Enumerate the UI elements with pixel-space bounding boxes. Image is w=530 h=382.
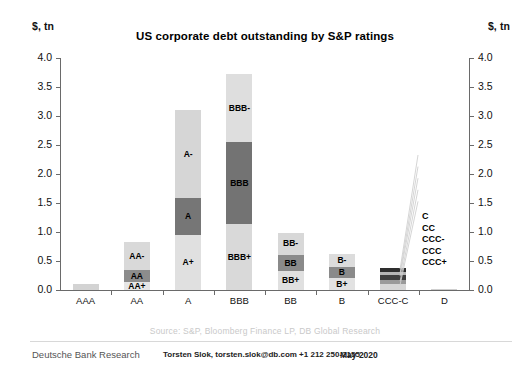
x-tick [214, 291, 215, 295]
callout-label-ccc: CCC [422, 246, 447, 258]
x-axis-label-aa: AA [131, 295, 144, 306]
callout-leader-lines [60, 58, 470, 291]
bar-segment-aa+[interactable]: AA+ [124, 282, 150, 290]
bar-segment-b+[interactable]: B+ [329, 278, 355, 290]
y-tick-label-r: 0.0 [478, 283, 493, 295]
bar-segment-bbb[interactable]: BBB [226, 142, 252, 224]
y-tick-r [470, 116, 474, 117]
y-tick-label-r: 2.5 [478, 138, 493, 150]
bar-ccc-c[interactable] [380, 268, 406, 290]
y-tick-label-l: 0.5 [37, 254, 52, 266]
y-tick-r [470, 261, 474, 262]
bar-segment-d[interactable] [431, 289, 457, 290]
y-tick-r [470, 232, 474, 233]
y-tick-l [56, 145, 60, 146]
bar-segment-b-[interactable]: B- [329, 254, 355, 267]
y-tick-label-r: 4.0 [478, 51, 493, 63]
y-tick-label-l: 0.0 [37, 283, 52, 295]
y-tick-r [470, 203, 474, 204]
y-tick-label-l: 3.5 [37, 80, 52, 92]
y-tick-r [470, 58, 474, 59]
y-tick-label-r: 2.0 [478, 167, 493, 179]
x-tick [316, 291, 317, 295]
bar-segment-a-[interactable]: A- [175, 110, 201, 199]
bar-a[interactable]: A+AA- [175, 110, 201, 290]
bar-aaa[interactable] [73, 284, 99, 290]
bar-segment-bbb-[interactable]: BBB- [226, 74, 252, 142]
bar-segment-ccc+[interactable] [380, 284, 406, 290]
publication-date: May 2020 [340, 350, 378, 360]
callout-label-cccplus: CCC+ [422, 257, 447, 269]
x-tick [419, 291, 420, 295]
y-tick-l [56, 261, 60, 262]
y-tick-label-r: 1.0 [478, 225, 493, 237]
y-tick-l [56, 174, 60, 175]
y-tick-r [470, 87, 474, 88]
x-axis-label-bbb: BBB [230, 295, 249, 306]
bar-segment-bb+[interactable]: BB+ [278, 271, 304, 290]
callout-label-ccc-: CCC- [422, 234, 447, 246]
x-tick [111, 291, 112, 295]
y-tick-label-l: 1.0 [37, 225, 52, 237]
bar-segment-bb[interactable]: BB [278, 255, 304, 271]
y-tick-label-l: 2.0 [37, 167, 52, 179]
y-tick-l [56, 232, 60, 233]
callout-label-c: C [422, 211, 447, 223]
chart-title: US corporate debt outstanding by S&P rat… [0, 30, 530, 42]
contact-info: Torsten Slok, torsten.slok@db.com +1 212… [163, 350, 360, 359]
x-axis-label-d: D [441, 295, 448, 306]
source-note: Source: S&P, Bloomberg Finance LP, DB Gl… [0, 326, 530, 336]
bar-segment-b[interactable]: B [329, 267, 355, 279]
x-axis-label-aaa: AAA [76, 295, 95, 306]
publisher-label: Deutsche Bank Research [32, 349, 140, 360]
y-tick-label-r: 1.5 [478, 196, 493, 208]
y-tick-r [470, 290, 474, 291]
y-tick-label-r: 3.0 [478, 109, 493, 121]
y-tick-l [56, 116, 60, 117]
bar-segment-a[interactable]: A [175, 198, 201, 235]
bar-segment-bb-[interactable]: BB- [278, 233, 304, 255]
y-tick-r [470, 174, 474, 175]
x-axis-label-a: A [185, 295, 191, 306]
bar-segment-aaa[interactable] [73, 284, 99, 290]
y-tick-l [56, 58, 60, 59]
chart-plot-area: 0.00.51.01.52.02.53.03.54.0 0.00.51.01.5… [60, 58, 470, 291]
x-tick [163, 291, 164, 295]
y-tick-label-l: 1.5 [37, 196, 52, 208]
x-axis-label-bb: BB [284, 295, 297, 306]
bar-segment-a+[interactable]: A+ [175, 235, 201, 290]
y-tick-label-r: 3.5 [478, 80, 493, 92]
y-tick-label-r: 0.5 [478, 254, 493, 266]
y-tick-l [56, 290, 60, 291]
bar-segment-bbb+[interactable]: BBB+ [226, 224, 252, 290]
x-tick [368, 291, 369, 295]
bar-d[interactable] [431, 289, 457, 290]
y-tick-l [56, 87, 60, 88]
y-tick-label-l: 3.0 [37, 109, 52, 121]
x-tick [265, 291, 266, 295]
y-axis-left-line [60, 58, 61, 291]
bar-bbb[interactable]: BBB+BBBBBB- [226, 74, 252, 290]
x-axis-label-ccc-c: CCC-C [378, 295, 409, 306]
y-tick-l [56, 203, 60, 204]
bar-aa[interactable]: AA+AAAA- [124, 242, 150, 290]
bar-b[interactable]: B+BB- [329, 254, 355, 290]
x-axis-label-b: B [339, 295, 345, 306]
y-tick-r [470, 145, 474, 146]
ccc-callout-labels: CCCCCC-CCCCCC+ [422, 211, 447, 269]
y-tick-label-l: 2.5 [37, 138, 52, 150]
y-tick-label-l: 4.0 [37, 51, 52, 63]
callout-label-cc: CC [422, 223, 447, 235]
bar-segment-aa-[interactable]: AA- [124, 242, 150, 270]
bar-bb[interactable]: BB+BBBB- [278, 233, 304, 290]
footer-divider [30, 341, 512, 342]
